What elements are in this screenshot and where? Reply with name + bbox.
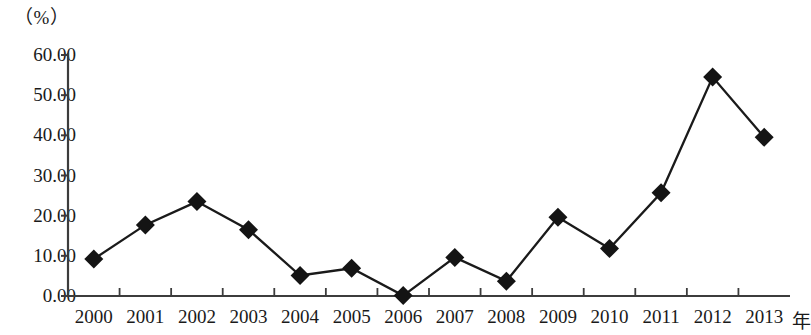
- data-point-marker: [394, 286, 413, 305]
- x-tick-label: 2003: [230, 306, 268, 328]
- x-tick-label: 2002: [178, 306, 216, 328]
- x-tick-label: 2009: [539, 306, 577, 328]
- x-tick-label: 2000: [75, 306, 113, 328]
- x-tick-label: 2004: [281, 306, 319, 328]
- plot-area: [0, 0, 811, 335]
- data-point-marker: [445, 248, 464, 267]
- x-tick-label: 2006: [384, 306, 422, 328]
- data-markers: [84, 68, 773, 306]
- data-point-marker: [342, 259, 361, 278]
- x-tick-label: 2011: [642, 306, 679, 328]
- x-axis-unit-label: 年: [792, 306, 811, 333]
- axis-lines: [68, 53, 790, 296]
- x-axis-ticks: [120, 288, 739, 296]
- x-tick-label: 2007: [436, 306, 474, 328]
- x-tick-label: 2005: [333, 306, 371, 328]
- line-chart: （%） 0.0010.0020.0030.0040.0050.0060.00 2…: [0, 0, 811, 335]
- x-tick-label: 2012: [694, 306, 732, 328]
- data-point-marker: [187, 192, 206, 211]
- x-tick-label: 2008: [487, 306, 525, 328]
- x-tick-label: 2013: [745, 306, 783, 328]
- data-point-marker: [84, 250, 103, 269]
- x-tick-label: 2001: [126, 306, 164, 328]
- data-point-marker: [136, 215, 155, 234]
- x-tick-label: 2010: [591, 306, 629, 328]
